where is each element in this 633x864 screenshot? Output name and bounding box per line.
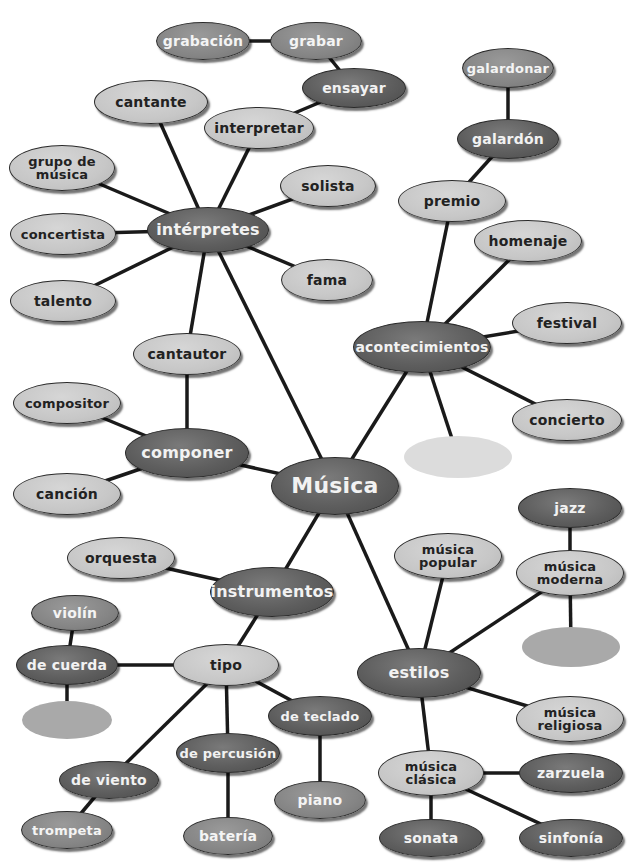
node-de-cuerda: de cuerda bbox=[16, 645, 118, 685]
node-cantautor: cantautor bbox=[133, 333, 241, 375]
node-label: tipo bbox=[210, 658, 242, 672]
node-label: estilos bbox=[389, 665, 450, 681]
node-zarzuela: zarzuela bbox=[519, 753, 623, 793]
node-musica-moderna: música moderna bbox=[516, 550, 624, 596]
node-piano: piano bbox=[274, 781, 366, 819]
node-blank-cuerda bbox=[22, 701, 112, 739]
node-label: acontecimientos bbox=[355, 340, 488, 354]
node-grabacion: grabación bbox=[156, 22, 250, 60]
node-musica: Música bbox=[271, 457, 399, 515]
node-label: música religiosa bbox=[537, 706, 602, 732]
node-label: concierto bbox=[529, 413, 605, 427]
node-premio: premio bbox=[398, 180, 506, 222]
node-grabar: grabar bbox=[270, 22, 362, 60]
node-label: cantautor bbox=[148, 347, 227, 361]
node-label: música moderna bbox=[537, 560, 603, 586]
concept-map: Músicaintérpretesgrabacióngrabarensayarc… bbox=[0, 0, 633, 864]
node-de-percusion: de percusión bbox=[176, 733, 280, 773]
node-label: cantante bbox=[115, 95, 187, 109]
node-de-viento: de viento bbox=[59, 761, 159, 799]
node-label: jazz bbox=[554, 501, 585, 515]
node-label: intérpretes bbox=[156, 222, 260, 238]
node-label: sonata bbox=[404, 831, 459, 845]
node-label: galardón bbox=[472, 132, 544, 146]
node-sonata: sonata bbox=[379, 819, 483, 857]
node-label: violín bbox=[53, 606, 97, 620]
node-label: ensayar bbox=[322, 81, 386, 95]
node-label: compositor bbox=[25, 397, 109, 410]
node-galardon: galardón bbox=[457, 119, 559, 159]
node-label: Música bbox=[291, 475, 378, 497]
node-label: canción bbox=[36, 487, 98, 501]
node-bateria: batería bbox=[183, 817, 273, 855]
node-sinfonia: sinfonía bbox=[519, 819, 623, 857]
node-talento: talento bbox=[10, 280, 116, 322]
node-label: zarzuela bbox=[537, 766, 605, 780]
node-ensayar: ensayar bbox=[302, 68, 406, 108]
node-label: piano bbox=[298, 793, 343, 807]
node-violin: violín bbox=[31, 595, 119, 631]
node-de-teclado: de teclado bbox=[268, 696, 372, 736]
node-orquesta: orquesta bbox=[67, 537, 175, 579]
node-instrumentos: instrumentos bbox=[210, 567, 334, 617]
node-musica-religiosa: música religiosa bbox=[516, 696, 624, 742]
node-label: premio bbox=[424, 194, 481, 208]
node-label: de viento bbox=[71, 773, 147, 787]
node-label: fama bbox=[307, 273, 347, 287]
node-label: orquesta bbox=[85, 551, 157, 565]
node-concertista: concertista bbox=[10, 213, 116, 255]
node-interpretes: intérpretes bbox=[147, 207, 269, 253]
node-label: grabar bbox=[289, 34, 343, 48]
node-label: galardonar bbox=[467, 62, 549, 75]
node-label: festival bbox=[537, 316, 597, 330]
node-label: batería bbox=[199, 829, 257, 843]
node-fama: fama bbox=[281, 259, 373, 301]
node-musica-popular: música popular bbox=[394, 533, 502, 579]
node-label: solista bbox=[301, 179, 354, 193]
node-trompeta: trompeta bbox=[21, 811, 113, 849]
node-label: homenaje bbox=[489, 234, 568, 248]
node-interpretar: interpretar bbox=[204, 107, 314, 149]
node-musica-clasica: música clásica bbox=[378, 750, 484, 796]
node-estilos: estilos bbox=[357, 648, 481, 698]
node-cancion: canción bbox=[13, 473, 121, 515]
node-label: sinfonía bbox=[539, 831, 604, 845]
node-acontecimientos: acontecimientos bbox=[353, 321, 491, 373]
node-label: de percusión bbox=[180, 747, 277, 760]
node-label: trompeta bbox=[32, 824, 102, 837]
node-label: de teclado bbox=[281, 710, 360, 723]
node-jazz: jazz bbox=[518, 488, 622, 528]
node-concierto: concierto bbox=[512, 399, 622, 441]
node-label: talento bbox=[34, 294, 92, 308]
node-label: de cuerda bbox=[27, 658, 107, 672]
node-blank-acont bbox=[404, 436, 512, 478]
node-compositor: compositor bbox=[13, 382, 121, 424]
node-galardonar: galardonar bbox=[462, 48, 554, 88]
node-tipo: tipo bbox=[173, 644, 279, 686]
node-label: música popular bbox=[419, 543, 477, 569]
node-label: grupo de música bbox=[28, 155, 95, 181]
node-cantante: cantante bbox=[94, 80, 208, 124]
node-label: interpretar bbox=[214, 121, 304, 135]
node-label: música clásica bbox=[405, 760, 458, 786]
node-festival: festival bbox=[512, 302, 622, 344]
node-homenaje: homenaje bbox=[474, 220, 582, 262]
node-label: concertista bbox=[21, 228, 105, 241]
node-blank-moderna bbox=[522, 627, 620, 667]
node-solista: solista bbox=[280, 165, 376, 207]
node-label: instrumentos bbox=[211, 584, 334, 600]
node-grupo-musica: grupo de música bbox=[9, 145, 115, 191]
node-label: componer bbox=[141, 445, 232, 461]
node-componer: componer bbox=[125, 428, 249, 478]
node-label: grabación bbox=[163, 34, 243, 48]
